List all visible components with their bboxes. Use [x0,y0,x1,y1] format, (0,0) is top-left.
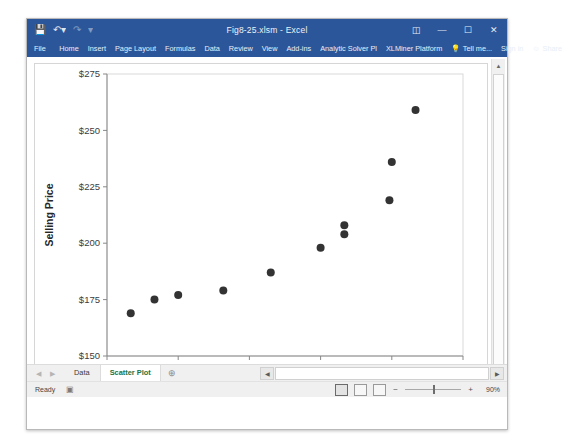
first-sheet-icon[interactable]: ◀ [36,370,41,378]
quick-access-toolbar: 💾 ↶▾ ↷ ▾ [27,25,93,35]
tab-page-layout[interactable]: Page Layout [110,40,160,57]
zoom-level-label[interactable]: 90% [480,386,500,393]
tab-analytic-solver-platform[interactable]: Analytic Solver Pl [316,40,382,57]
sheet-tab-bar: ◀ ▶ Data Scatter Plot ⊕ ◀ ▶ [27,364,507,382]
tab-formulas[interactable]: Formulas [160,40,199,57]
tab-data[interactable]: Data [200,40,224,57]
scatter-point[interactable] [317,244,325,252]
scatter-point[interactable] [385,196,393,204]
vertical-scrollbar[interactable]: ▲ ▼ [491,59,505,383]
tab-add-ins[interactable]: Add-ins [282,40,316,57]
scroll-up-arrow-icon[interactable]: ▲ [492,59,505,72]
chart-object[interactable]: $150$175$200$225$250$2750.9001.2001.5001… [34,63,488,381]
status-state: Ready [27,386,55,393]
tab-view[interactable]: View [257,40,282,57]
y-axis-tick-label: $275 [79,68,100,79]
tab-xlminer-platform[interactable]: XLMiner Platform [381,40,446,57]
ribbon-tab-bar: File Home Insert Page Layout Formulas Da… [27,40,507,57]
save-icon[interactable]: 💾 [34,25,46,35]
tell-me-box[interactable]: 💡 Tell me... [447,40,497,57]
scatter-point[interactable] [412,106,420,114]
y-axis-tick-label: $250 [79,125,100,136]
scatter-point[interactable] [150,296,158,304]
normal-view-icon[interactable] [335,384,348,396]
last-sheet-icon[interactable]: ▶ [50,370,55,378]
y-axis-title[interactable]: Selling Price [43,183,55,246]
scatter-point[interactable] [340,221,348,229]
scatter-point[interactable] [388,158,396,166]
tab-insert[interactable]: Insert [83,40,110,57]
ribbon-right-group: 💡 Tell me... Sign in ☺ Share [447,40,567,57]
share-person-icon: ☺ [532,44,540,53]
sheet-horizontal-scrollbar[interactable]: ◀ ▶ [260,367,507,382]
share-button[interactable]: ☺ Share [528,40,567,57]
sheet-area: $150$175$200$225$250$2750.9001.2001.5001… [30,59,490,383]
tell-me-label: Tell me... [463,44,492,53]
scatter-chart: $150$175$200$225$250$2750.9001.2001.5001… [35,64,475,404]
close-button[interactable]: ✕ [481,19,507,40]
scatter-point[interactable] [127,309,135,317]
scatter-point[interactable] [174,291,182,299]
sheet-tab-data[interactable]: Data [64,364,100,382]
undo-icon[interactable]: ↶▾ [53,25,66,35]
customize-quick-access-icon[interactable]: ▾ [88,25,93,35]
scroll-track[interactable] [275,367,489,380]
minimize-button[interactable]: — [429,19,455,40]
sign-in-button[interactable]: Sign in [497,40,528,57]
window-buttons: ◫ — ☐ ✕ [403,19,507,40]
scroll-left-arrow-icon[interactable]: ◀ [260,367,274,380]
page-break-preview-icon[interactable] [373,384,386,396]
scroll-right-arrow-icon[interactable]: ▶ [490,367,504,380]
scatter-point[interactable] [219,287,227,295]
zoom-slider[interactable] [405,389,461,390]
y-axis-tick-label: $150 [79,350,100,361]
status-bar: Ready ▣ − + 90% [27,381,507,397]
title-bar: 💾 ↶▾ ↷ ▾ Fig8-25.xlsm - Excel ◫ — ☐ ✕ [27,19,507,40]
sheet-tab-scatter-plot[interactable]: Scatter Plot [100,364,161,382]
y-axis-tick-label: $175 [79,294,100,305]
lightbulb-icon: 💡 [451,44,460,53]
zoom-slider-thumb[interactable] [433,385,435,394]
share-label: Share [543,44,562,53]
tab-file[interactable]: File [27,40,55,57]
accessibility-checker-icon[interactable]: ▣ [66,385,74,394]
add-sheet-icon[interactable]: ⊕ [161,366,183,382]
y-axis-tick-label: $200 [79,237,100,248]
redo-icon[interactable]: ↷ [73,25,81,35]
worksheet-body: $150$175$200$225$250$2750.9001.2001.5001… [27,57,507,397]
tab-review[interactable]: Review [224,40,257,57]
tab-home[interactable]: Home [55,40,83,57]
excel-window: 💾 ↶▾ ↷ ▾ Fig8-25.xlsm - Excel ◫ — ☐ ✕ Fi… [26,18,508,430]
zoom-in-button[interactable]: + [467,385,474,394]
status-right-group: − + 90% [335,384,507,396]
zoom-out-button[interactable]: − [392,385,399,394]
ribbon-display-options-icon[interactable]: ◫ [403,19,429,40]
vertical-scroll-thumb[interactable] [493,74,504,368]
page-layout-view-icon[interactable] [354,384,367,396]
y-axis-tick-label: $225 [79,181,100,192]
maximize-button[interactable]: ☐ [455,19,481,40]
scatter-point[interactable] [267,269,275,277]
scatter-point[interactable] [340,230,348,238]
